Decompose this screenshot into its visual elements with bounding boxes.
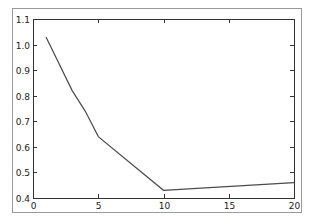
plot-area xyxy=(34,20,295,199)
axis-ticks xyxy=(33,19,295,199)
line-chart: 051015200.40.50.60.70.80.91.01.1 xyxy=(0,0,312,224)
y-tick-label: 0.4 xyxy=(16,194,31,204)
y-tick-label: 0.5 xyxy=(16,168,30,178)
y-tick-label: 0.7 xyxy=(16,117,30,127)
x-tick-label: 0 xyxy=(31,201,37,211)
y-tick-label: 1.1 xyxy=(16,15,30,25)
x-tick-label: 20 xyxy=(289,201,301,211)
x-tick-label: 5 xyxy=(96,201,102,211)
y-tick-label: 0.6 xyxy=(16,143,31,153)
y-tick-label: 0.9 xyxy=(16,66,31,76)
y-tick-label: 1.0 xyxy=(16,41,31,51)
x-tick-label: 15 xyxy=(224,201,235,211)
tick-labels: 051015200.40.50.60.70.80.91.01.1 xyxy=(16,15,301,212)
x-tick-label: 10 xyxy=(159,201,171,211)
y-tick-label: 0.8 xyxy=(16,92,31,102)
data-line xyxy=(46,37,294,190)
